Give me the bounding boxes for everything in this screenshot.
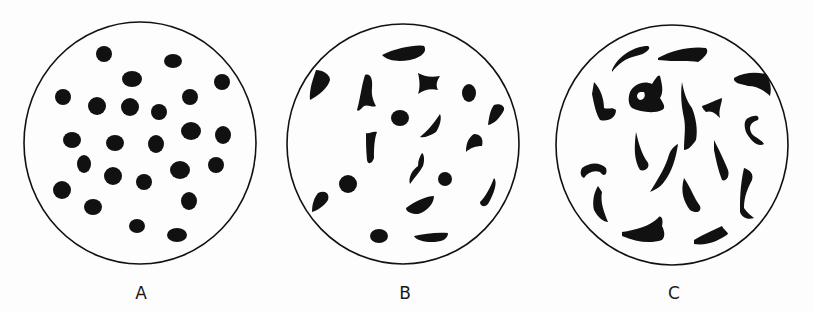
round-particle <box>63 132 81 148</box>
irregular-particle <box>629 75 664 112</box>
round-particle <box>104 167 122 185</box>
round-particle <box>438 172 452 186</box>
round-particle <box>214 74 230 90</box>
irregular-particle <box>480 178 496 206</box>
irregular-particle <box>382 45 425 60</box>
irregular-particle <box>420 114 441 137</box>
panel-label-c: C <box>668 285 680 302</box>
irregular-particle <box>406 196 434 214</box>
round-particle <box>182 89 198 105</box>
irregular-particle <box>702 98 722 118</box>
round-particle <box>84 199 102 215</box>
irregular-particle <box>714 140 729 180</box>
figure-stage: A B C <box>0 0 813 313</box>
irregular-particle <box>658 47 707 62</box>
irregular-particle <box>592 82 616 121</box>
irregular-particle <box>310 70 330 100</box>
irregular-particle <box>488 104 504 125</box>
irregular-particle <box>414 233 448 242</box>
irregular-particle <box>466 134 483 152</box>
round-particle <box>88 97 106 115</box>
particle-diagram <box>0 0 813 313</box>
round-particle <box>151 104 167 120</box>
irregular-particle <box>612 46 649 72</box>
round-particle <box>96 46 112 62</box>
irregular-particle <box>593 186 608 222</box>
irregular-particle <box>581 164 607 179</box>
round-particle <box>106 135 124 151</box>
round-particle <box>181 122 201 140</box>
irregular-particle <box>409 153 424 184</box>
irregular-particle <box>650 144 678 192</box>
irregular-particle <box>366 132 377 163</box>
round-particle <box>53 181 71 199</box>
round-particle <box>339 175 357 193</box>
round-particle <box>148 135 164 153</box>
panel-a-round-particles <box>24 22 256 264</box>
irregular-particle <box>681 82 697 150</box>
round-particle <box>167 228 187 242</box>
field-circle <box>556 25 788 265</box>
round-particle <box>121 98 139 116</box>
irregular-particle <box>622 216 664 242</box>
round-particle <box>215 126 231 144</box>
irregular-particle <box>357 75 376 111</box>
irregular-particle <box>312 192 328 212</box>
panel-label-a: A <box>135 285 147 302</box>
irregular-particle <box>418 73 440 94</box>
round-particle <box>181 192 197 210</box>
round-particle <box>55 89 71 105</box>
irregular-particle <box>740 168 754 219</box>
irregular-particle <box>694 226 728 244</box>
panel-b-mixed-particles <box>287 24 519 264</box>
round-particle <box>136 174 152 190</box>
irregular-particle <box>734 73 771 96</box>
round-particle <box>391 110 409 126</box>
irregular-particle <box>682 178 700 212</box>
round-particle <box>208 157 224 173</box>
panel-c-irregular-particles <box>556 25 788 265</box>
round-particle <box>462 84 476 102</box>
round-particle <box>164 54 182 68</box>
panel-label-b: B <box>399 285 411 302</box>
round-particle <box>170 161 190 179</box>
irregular-particle <box>635 132 649 170</box>
round-particle <box>370 229 388 243</box>
round-particle <box>129 219 145 233</box>
irregular-particle <box>745 116 764 145</box>
round-particle <box>122 71 142 87</box>
round-particle <box>77 155 91 173</box>
